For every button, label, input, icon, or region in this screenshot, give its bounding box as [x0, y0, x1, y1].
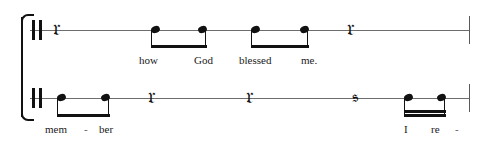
lyric-re: re — [431, 123, 440, 135]
quarter-rest-s1-1: 𝔯 — [53, 18, 60, 39]
opening-barline-thick-2a — [32, 88, 35, 108]
quarter-rest-s2-1: 𝔯 — [148, 86, 155, 107]
opening-barline-thick-2b — [39, 88, 42, 108]
beam-mem-ber — [57, 114, 110, 117]
lyric-how: how — [139, 54, 158, 66]
eighth-rest-s2-1: 𝔰 — [352, 88, 358, 105]
lyric-hyphen-1: - — [84, 123, 88, 135]
lyric-blessed: blessed — [239, 54, 271, 66]
quarter-rest-s1-2: 𝔯 — [347, 18, 354, 39]
beam-how-god — [151, 45, 207, 48]
opening-barline-thick-1b — [39, 20, 42, 40]
system-1: 𝔯 𝔯 how God blessed me. — [0, 0, 496, 70]
system-2: 𝔯 𝔯 𝔰 mem - ber I re - — [0, 70, 496, 140]
beam-i-re-primary — [404, 110, 446, 113]
lyric-me: me. — [301, 54, 317, 66]
beam-blessed-me — [251, 45, 309, 48]
opening-barline-thick-1a — [32, 20, 35, 40]
end-barline-1 — [469, 16, 470, 44]
lyric-mem: mem — [45, 123, 67, 135]
beam-i-re-secondary — [404, 114, 446, 117]
quarter-rest-s2-2: 𝔯 — [246, 86, 253, 107]
lyric-hyphen-2: - — [455, 123, 459, 135]
lyric-i: I — [404, 123, 408, 135]
music-score: 𝔯 𝔯 how God blessed me. — [0, 0, 496, 141]
lyric-god: God — [194, 54, 213, 66]
lyric-ber: ber — [99, 123, 113, 135]
end-barline-2 — [469, 84, 470, 112]
